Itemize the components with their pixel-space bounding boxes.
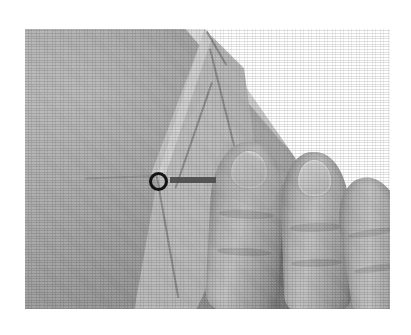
- fingernail: [297, 160, 332, 197]
- annotation-ring-marker: [149, 172, 168, 191]
- knuckle-crease: [353, 261, 390, 275]
- annotation-bar-marker: [170, 177, 216, 183]
- knuckle-crease: [291, 258, 343, 268]
- knuckle-crease: [348, 226, 390, 240]
- photograph-plate: [25, 29, 390, 309]
- knuckle-crease: [217, 247, 273, 258]
- knuckle-crease: [290, 223, 342, 233]
- figure-page: [0, 0, 411, 335]
